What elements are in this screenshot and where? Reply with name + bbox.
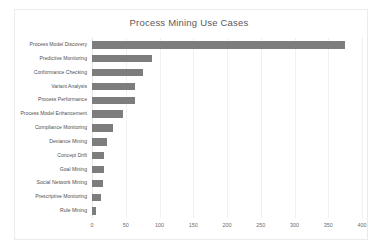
bar-row: Goal Mining: [92, 163, 362, 177]
chart-figure: Process Mining Use Cases Process Model D…: [0, 0, 378, 251]
x-tick-400: 400: [358, 222, 367, 228]
bar-row: Predictive Monitoring: [92, 52, 362, 66]
category-label: Compliance Monitoring: [35, 121, 87, 135]
bar-row: Process Model Enhancement: [92, 107, 362, 121]
x-tick-300: 300: [290, 222, 299, 228]
bar: [92, 152, 104, 159]
category-label: Process Model Enhancement: [20, 107, 87, 121]
bar: [92, 207, 96, 214]
bar: [92, 138, 107, 145]
category-label: Concept Drift: [57, 149, 87, 163]
x-tick-200: 200: [223, 222, 232, 228]
category-label: Prescriptive Monitoring: [35, 190, 87, 204]
bar: [92, 166, 104, 173]
bar: [92, 69, 143, 76]
category-label: Process Model Discovery: [30, 38, 87, 52]
bar: [92, 97, 135, 104]
bar-row: Conformance Checking: [92, 66, 362, 80]
bar: [92, 180, 103, 187]
plot-area: Process Model DiscoveryPredictive Monito…: [92, 38, 362, 218]
category-label: Goal Mining: [60, 163, 87, 177]
x-tick-0: 0: [91, 222, 94, 228]
bar: [92, 83, 135, 90]
bar-row: Process Model Discovery: [92, 38, 362, 52]
bar: [92, 124, 113, 131]
gridline-400: [362, 38, 363, 218]
category-label: Rule Mining: [60, 204, 87, 218]
bar: [92, 110, 123, 117]
x-tick-350: 350: [324, 222, 333, 228]
bar: [92, 194, 101, 201]
bar-row: Rule Mining: [92, 204, 362, 218]
category-label: Conformance Checking: [34, 66, 87, 80]
bar-row: Concept Drift: [92, 149, 362, 163]
category-label: Predictive Monitoring: [39, 52, 87, 66]
bar-row: Prescriptive Monitoring: [92, 190, 362, 204]
bar-row: Process Performance: [92, 93, 362, 107]
x-tick-50: 50: [123, 222, 129, 228]
x-tick-250: 250: [256, 222, 265, 228]
x-tick-100: 100: [155, 222, 164, 228]
bar-row: Social Network Mining: [92, 176, 362, 190]
bar-row: Variant Analysis: [92, 80, 362, 94]
bar-row: Compliance Monitoring: [92, 121, 362, 135]
category-label: Process Performance: [38, 93, 87, 107]
x-tick-150: 150: [189, 222, 198, 228]
category-label: Deviance Mining: [49, 135, 87, 149]
bar: [92, 55, 152, 62]
bar-row: Deviance Mining: [92, 135, 362, 149]
category-label: Social Network Mining: [37, 176, 87, 190]
category-label: Variant Analysis: [51, 80, 87, 94]
bar: [92, 41, 345, 48]
chart-title: Process Mining Use Cases: [0, 17, 378, 28]
